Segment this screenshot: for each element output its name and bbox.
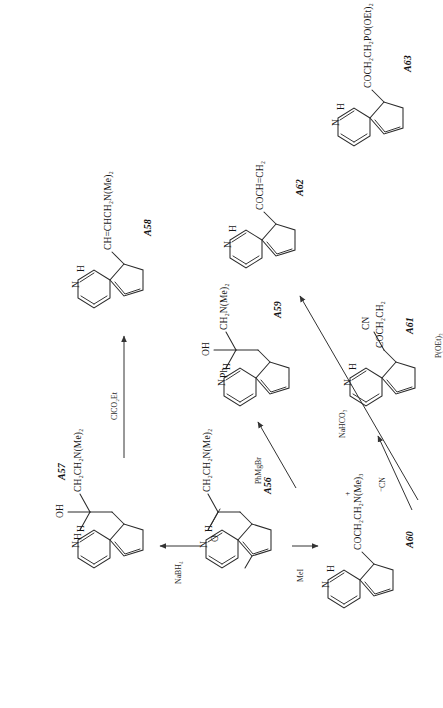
substituent-a57-chain: CH₂CH₂N(Me)₂ [74,429,84,492]
reagent-label-poet3: P(OEt)₃ [434,333,443,358]
atom-label-n-a63: N [332,119,342,126]
substituent-a57-h: H [74,533,84,540]
reagent-label-phmgbr: PhMgBr [254,457,263,484]
indole-skeleton-a58 [78,252,143,308]
arrow-a60-a62 [300,296,418,500]
atom-label-n-a60: N [322,581,332,588]
substituent-a62-chain: COCH=CH₂ [256,161,266,210]
atom-label-h-a61: H [349,363,359,370]
reagent-label-nahco3: NaHCO₃ [338,410,347,438]
reagent-label-clco2et: ClCO₂Et [110,392,119,420]
substituent-bonds [68,332,384,530]
atom-label-h-a62: H [229,225,239,232]
compound-label-a62: A62 [294,179,305,196]
reaction-arrows [124,174,443,546]
atom-label-n-a56: N [200,541,210,548]
substituent-a58-chain: CH=CHCH₂N(Me)₂ [104,171,114,250]
compound-label-a57: A57 [56,463,67,480]
indole-skeleton-a62 [230,212,295,268]
reagent-label-nabh4: NaBH₄ [174,561,183,584]
oxygen-label-a56: O [211,535,221,542]
reagent-label-mei: MeI [296,569,305,582]
atom-label-n-a61: N [344,379,354,386]
substituent-a59-ph: Ph [220,368,230,378]
compound-label-a63: A63 [402,55,413,72]
atom-label-n-a59: N [218,379,228,386]
atom-label-n-a62: N [224,241,234,248]
atom-label-h-a58: H [77,265,87,272]
substituent-a61-cn: CN [362,317,372,330]
substituent-a63-chain: COCH₂CH₂PO(OEt)₂ [364,3,374,88]
arrow-a60-a61 [378,436,412,510]
substituent-a56-chain: CH₂CH₂N(Me)₂ [203,429,213,492]
indole-skeleton-a59 [224,350,289,406]
compound-label-a59: A59 [272,301,283,318]
atom-label-h-a56: H [205,525,215,532]
compound-label-a58: A58 [142,219,153,236]
atom-label-n-a58: N [72,281,82,288]
atom-label-h-a57: H [77,525,87,532]
substituent-a61-chain: COCH₂CH₂ [376,301,386,348]
atom-label-h-a60: H [327,565,337,572]
charge-label-a60: + [344,491,352,496]
substituent-a57-oh: OH [56,504,66,518]
reagent-label-cyanide: ⁻CN [378,477,387,492]
indole-skeleton-a57 [78,512,143,568]
indole-skeleton-a60 [328,552,393,608]
compound-label-a56: A56 [262,477,273,494]
substituent-a60-chain: COCH₂CH₂N(Me)₃ [354,473,364,550]
compound-label-a60: A60 [404,531,415,548]
substituent-a59-chain: CH₂N(Me)₂ [220,283,230,330]
indole-skeleton-a63 [338,90,403,146]
substituent-a59-oh: OH [202,342,212,356]
atom-label-n-a57: N [72,541,82,548]
atom-label-h-a63: H [337,103,347,110]
compound-label-a61: A61 [404,317,415,334]
indole-skeleton-a61 [350,350,415,406]
